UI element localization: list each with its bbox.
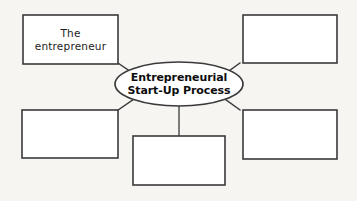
node-box-top-right[interactable] bbox=[243, 15, 337, 63]
concept-map-diagram: Entrepreneurial Start-Up Process The ent… bbox=[0, 0, 357, 201]
node-box-bottom-left[interactable] bbox=[22, 110, 118, 158]
node-box-bottom-center[interactable] bbox=[133, 136, 225, 185]
node-box-bottom-right[interactable] bbox=[243, 110, 337, 159]
diagram-canvas bbox=[0, 0, 357, 201]
node-ellipse-center[interactable] bbox=[115, 62, 243, 106]
node-box-top-left[interactable] bbox=[23, 15, 118, 64]
